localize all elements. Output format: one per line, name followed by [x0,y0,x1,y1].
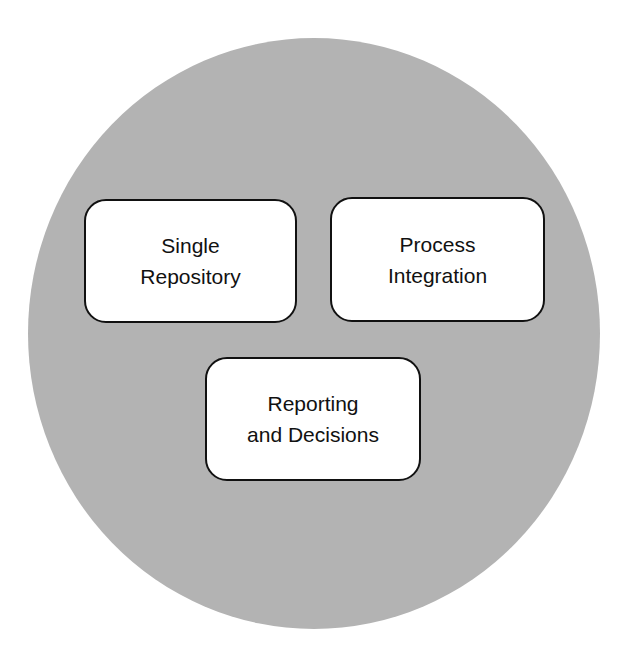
single-repository-box: Single Repository [84,199,297,323]
box-label: Single Repository [140,230,240,292]
box-label: Process Integration [388,229,487,291]
box-label: Reporting and Decisions [247,388,379,450]
process-integration-box: Process Integration [330,197,545,322]
enclosing-circle [28,38,600,629]
reporting-decisions-box: Reporting and Decisions [205,357,421,481]
